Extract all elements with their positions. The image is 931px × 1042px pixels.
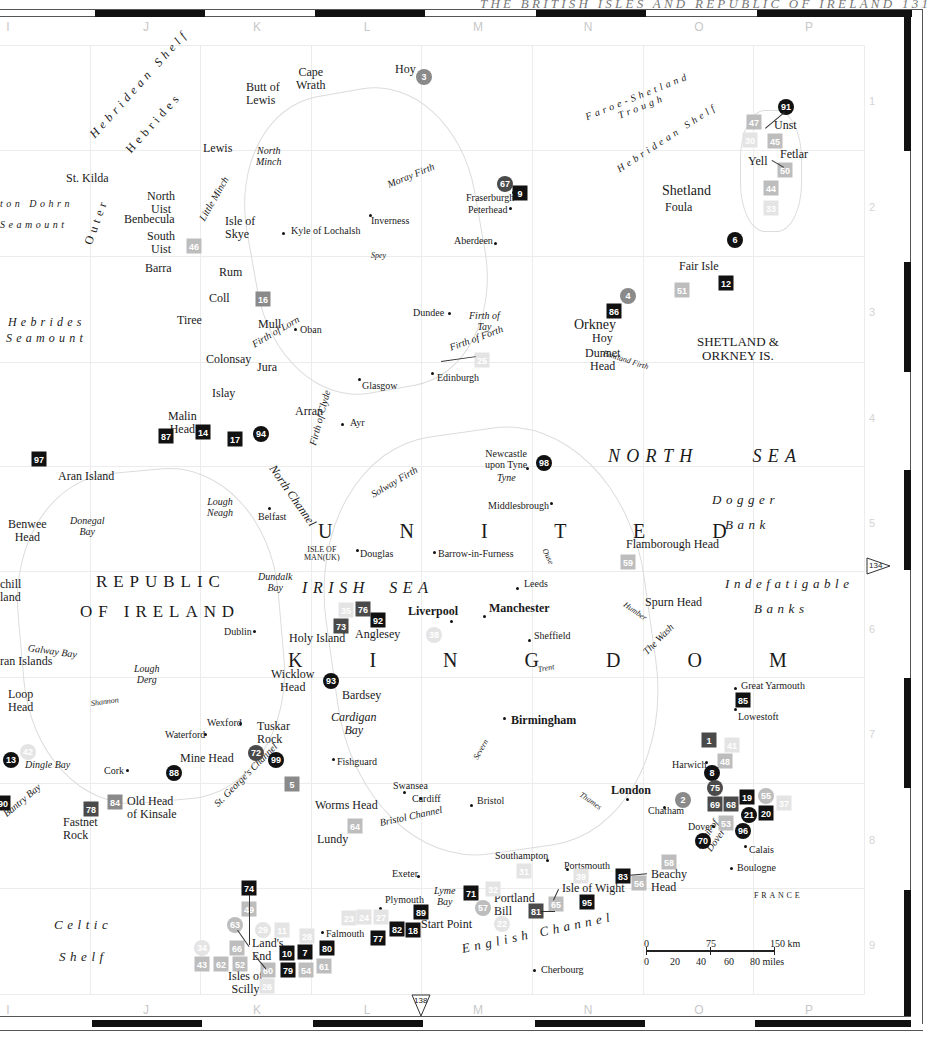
site-marker-square[interactable]: 51	[675, 283, 690, 298]
page-ref-down[interactable]: 138	[411, 994, 431, 1022]
site-marker-square[interactable]: 77	[371, 931, 386, 946]
site-marker-square[interactable]: 26	[260, 979, 275, 994]
site-marker-square[interactable]: 20	[759, 806, 774, 821]
site-marker-square[interactable]: 28	[300, 929, 315, 944]
site-marker-circle[interactable]: 22	[494, 916, 510, 932]
site-marker-square[interactable]: 11	[275, 923, 290, 938]
site-marker-circle[interactable]: 2	[675, 792, 691, 808]
site-marker-square[interactable]: 47	[747, 115, 762, 130]
site-marker-circle[interactable]: 99	[268, 752, 284, 768]
site-marker-square[interactable]: 5	[285, 777, 300, 792]
site-marker-square[interactable]: 39	[574, 869, 589, 884]
site-marker-square[interactable]: 61	[317, 959, 332, 974]
site-marker-square[interactable]: 46	[187, 239, 202, 254]
site-marker-square[interactable]: 44	[764, 181, 779, 196]
site-marker-square[interactable]: 12	[719, 276, 734, 291]
site-marker-circle[interactable]: 6	[727, 232, 743, 248]
site-marker-circle[interactable]: 91	[778, 99, 794, 115]
site-marker-circle[interactable]: 8	[704, 765, 720, 781]
site-marker-square[interactable]: 48	[718, 754, 733, 769]
site-marker-square[interactable]: 86	[607, 304, 622, 319]
site-marker-circle[interactable]: 94	[253, 426, 269, 442]
site-marker-square[interactable]: 53	[719, 816, 734, 831]
site-marker-square[interactable]: 25	[475, 353, 490, 368]
site-marker-square[interactable]: 89	[414, 905, 429, 920]
site-marker-square[interactable]: 27	[374, 910, 389, 925]
site-marker-square[interactable]: 30	[743, 133, 758, 148]
site-marker-circle[interactable]: 93	[323, 673, 339, 689]
site-marker-circle[interactable]: 98	[536, 455, 552, 471]
map-label: FRANCE	[754, 892, 802, 900]
site-marker-square[interactable]: 32	[486, 882, 501, 897]
site-marker-square[interactable]: 54	[299, 963, 314, 978]
site-marker-circle[interactable]: 3	[416, 69, 432, 85]
site-marker-circle[interactable]: 75	[707, 780, 723, 796]
grid-line	[0, 994, 865, 995]
site-marker-circle[interactable]: 38	[426, 627, 442, 643]
site-marker-square[interactable]: 52	[233, 957, 248, 972]
site-marker-square[interactable]: 19	[740, 790, 755, 805]
site-marker-circle[interactable]: 88	[166, 765, 182, 781]
site-marker-circle[interactable]: 57	[475, 900, 491, 916]
site-marker-square[interactable]: 73	[334, 619, 349, 634]
town-dot-icon	[546, 859, 549, 862]
site-marker-square[interactable]: 45	[768, 134, 783, 149]
site-marker-circle[interactable]: 21	[741, 807, 757, 823]
map-label: Liverpool	[408, 605, 458, 618]
site-marker-circle[interactable]: 67	[497, 176, 513, 192]
site-marker-square[interactable]: 37	[777, 796, 792, 811]
frame-bar	[904, 678, 911, 788]
site-marker-square[interactable]: 64	[348, 819, 363, 834]
site-marker-square[interactable]: 56	[632, 876, 647, 891]
site-marker-square[interactable]: 10	[280, 946, 295, 961]
site-marker-square[interactable]: 16	[256, 292, 271, 307]
site-marker-square[interactable]: 79	[281, 963, 296, 978]
site-marker-square[interactable]: 85	[736, 693, 751, 708]
site-marker-square[interactable]: 92	[371, 613, 386, 628]
site-marker-square[interactable]: 84	[108, 795, 123, 810]
site-marker-square[interactable]: 24	[357, 910, 372, 925]
site-marker-square[interactable]: 59	[621, 555, 636, 570]
site-marker-square[interactable]: 62	[214, 957, 229, 972]
site-marker-square[interactable]: 95	[580, 895, 595, 910]
site-marker-circle[interactable]: 55	[758, 788, 774, 804]
site-marker-square[interactable]: 43	[195, 957, 210, 972]
site-marker-square[interactable]: 76	[356, 602, 371, 617]
site-marker-square[interactable]: 18	[406, 923, 421, 938]
site-marker-square[interactable]: 78	[84, 802, 99, 817]
site-marker-square[interactable]: 83	[616, 869, 631, 884]
site-marker-square[interactable]: 14	[196, 425, 211, 440]
site-marker-square[interactable]: 35	[339, 603, 354, 618]
page-ref-right[interactable]: 134	[866, 557, 892, 579]
site-marker-square[interactable]: 97	[32, 452, 47, 467]
site-marker-circle[interactable]: 29	[255, 922, 271, 938]
site-marker-circle[interactable]: 4	[620, 288, 636, 304]
site-marker-square[interactable]: 82	[390, 922, 405, 937]
site-marker-circle[interactable]: 34	[194, 940, 210, 956]
site-marker-square[interactable]: 69	[708, 797, 723, 812]
site-marker-square[interactable]: 65	[549, 897, 564, 912]
site-marker-square[interactable]: 58	[662, 855, 677, 870]
site-marker-square[interactable]: 87	[159, 429, 174, 444]
site-marker-circle[interactable]: 63	[227, 917, 243, 933]
site-marker-square[interactable]: 68	[724, 797, 739, 812]
site-marker-circle[interactable]: 13	[3, 752, 19, 768]
site-marker-square[interactable]: 80	[320, 941, 335, 956]
site-marker-square[interactable]: 1	[702, 733, 717, 748]
site-marker-square[interactable]: 90	[0, 796, 11, 811]
site-marker-square[interactable]: 9	[513, 186, 528, 201]
site-marker-square[interactable]: 31	[517, 864, 532, 879]
site-marker-circle[interactable]: 70	[695, 833, 711, 849]
site-marker-square[interactable]: 17	[228, 432, 243, 447]
site-marker-square[interactable]: 33	[764, 201, 779, 216]
site-marker-square[interactable]: 41	[725, 738, 740, 753]
frame-bar	[904, 470, 911, 570]
site-marker-circle[interactable]: 96	[735, 823, 751, 839]
site-marker-square[interactable]: 74	[242, 881, 257, 896]
site-marker-square[interactable]: 23	[342, 911, 357, 926]
site-marker-circle[interactable]: 72	[248, 745, 264, 761]
site-marker-circle[interactable]: 42	[20, 744, 36, 760]
site-marker-square[interactable]: 66	[230, 941, 245, 956]
site-marker-square[interactable]: 7	[298, 945, 313, 960]
site-marker-square[interactable]: 71	[464, 886, 479, 901]
